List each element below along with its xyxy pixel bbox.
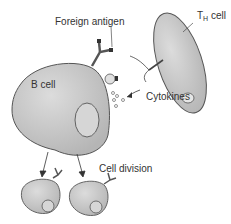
cytokines-label: Cytokines bbox=[146, 91, 190, 102]
th-cell-label-suffix: cell bbox=[208, 10, 226, 21]
daughter-cell-2 bbox=[69, 173, 116, 215]
cell-division-label: Cell division bbox=[99, 163, 152, 174]
th-cell bbox=[130, 7, 217, 120]
cytokines bbox=[112, 92, 125, 108]
b-cell-label: B cell bbox=[31, 79, 55, 90]
diagram-canvas bbox=[0, 0, 231, 224]
foreign-antigen-label: Foreign antigen bbox=[55, 16, 125, 27]
b-cell bbox=[12, 26, 118, 155]
th-cell-label: TH cell bbox=[197, 10, 226, 22]
